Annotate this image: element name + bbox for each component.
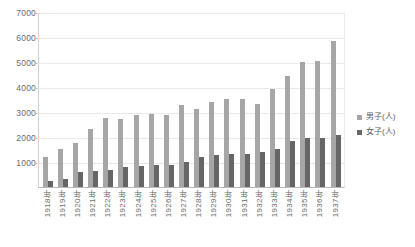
- bar-group: [328, 14, 343, 187]
- x-axis-tick: 1921年: [85, 190, 100, 247]
- bar-group: [70, 14, 85, 187]
- bar-female: [275, 149, 280, 187]
- bar-female: [336, 135, 341, 187]
- y-axis-tick-label: 7000: [2, 9, 36, 18]
- x-axis-tick-label: 1918年: [44, 190, 52, 217]
- bar-female: [184, 162, 189, 187]
- y-axis-tick-label: 6000: [2, 34, 36, 43]
- legend-item[interactable]: 女子(人): [356, 127, 414, 137]
- x-axis-tick-label: 1936年: [316, 190, 324, 217]
- plot-area: [38, 13, 345, 188]
- x-axis-tick-label: 1925年: [150, 190, 158, 217]
- bar-female: [260, 152, 265, 187]
- y-axis-tick-label: 2000: [2, 134, 36, 143]
- bar-female: [245, 154, 250, 187]
- x-axis-tick-label: 1921年: [89, 190, 97, 217]
- y-axis-tick-label: 1000: [2, 159, 36, 168]
- x-axis-tick: 1918年: [40, 190, 55, 247]
- bar-chart: 7000600050004000300020001000 1918年1919年1…: [0, 0, 415, 247]
- x-axis-tick: 1926年: [161, 190, 176, 247]
- bar-group: [283, 14, 298, 187]
- x-axis-tick-label: 1927年: [180, 190, 188, 217]
- x-axis-tick: 1933年: [267, 190, 282, 247]
- bar-group: [207, 14, 222, 187]
- bar-group: [237, 14, 252, 187]
- x-axis-tick: 1934年: [283, 190, 298, 247]
- x-axis-tick: 1931年: [237, 190, 252, 247]
- y-axis-tick-label: 3000: [2, 109, 36, 118]
- bar-female: [154, 165, 159, 187]
- bar-group: [146, 14, 161, 187]
- x-axis-tick: 1924年: [131, 190, 146, 247]
- bar-group: [313, 14, 328, 187]
- x-axis-tick-label: 1924年: [135, 190, 143, 217]
- x-axis-tick: 1920年: [70, 190, 85, 247]
- legend-label: 男子(人): [366, 112, 395, 122]
- bars-layer: [39, 14, 344, 187]
- bar-female: [63, 179, 68, 187]
- x-axis-tick-label: 1919年: [59, 190, 67, 217]
- x-axis-tick: 1923年: [116, 190, 131, 247]
- legend-item[interactable]: 男子(人): [356, 112, 414, 122]
- x-axis-tick-label: 1926年: [165, 190, 173, 217]
- bar-female: [108, 170, 113, 187]
- chart-legend: 男子(人)女子(人): [356, 112, 414, 142]
- bar-female: [139, 166, 144, 187]
- bar-female: [48, 181, 53, 187]
- bar-group: [40, 14, 55, 187]
- bar-group: [222, 14, 237, 187]
- x-axis-labels: 1918年1919年1920年1921年1922年1923年1924年1925年…: [39, 190, 344, 247]
- bar-female: [169, 165, 174, 187]
- legend-swatch-icon: [356, 114, 363, 121]
- x-axis-tick: 1937年: [328, 190, 343, 247]
- bar-group: [267, 14, 282, 187]
- x-axis-tick-label: 1933年: [271, 190, 279, 217]
- x-axis-tick-label: 1934年: [286, 190, 294, 217]
- x-axis-tick-label: 1931年: [241, 190, 249, 217]
- y-axis: 7000600050004000300020001000: [0, 0, 36, 201]
- x-axis-tick-label: 1929年: [210, 190, 218, 217]
- bar-group: [101, 14, 116, 187]
- bar-female: [214, 155, 219, 187]
- x-axis-tick-label: 1923年: [119, 190, 127, 217]
- y-axis-tick-label: 4000: [2, 84, 36, 93]
- x-axis-tick: 1928年: [192, 190, 207, 247]
- bar-group: [55, 14, 70, 187]
- bar-group: [298, 14, 313, 187]
- x-axis-tick-label: 1922年: [104, 190, 112, 217]
- x-axis-tick-label: 1932年: [256, 190, 264, 217]
- bar-female: [305, 138, 310, 187]
- x-axis-tick: 1930年: [222, 190, 237, 247]
- bar-female: [229, 154, 234, 187]
- x-axis-tick-label: 1930年: [225, 190, 233, 217]
- x-axis-tick: 1919年: [55, 190, 70, 247]
- bar-female: [123, 167, 128, 187]
- legend-swatch-icon: [356, 129, 363, 136]
- x-axis-tick-label: 1928年: [195, 190, 203, 217]
- bar-group: [131, 14, 146, 187]
- bar-group: [176, 14, 191, 187]
- bar-female: [320, 138, 325, 187]
- bar-female: [199, 157, 204, 187]
- bar-female: [93, 171, 98, 187]
- bar-group: [116, 14, 131, 187]
- bar-group: [192, 14, 207, 187]
- x-axis-tick-label: 1937年: [332, 190, 340, 217]
- x-axis-tick-label: 1935年: [301, 190, 309, 217]
- y-axis-tick-label: 5000: [2, 59, 36, 68]
- bar-group: [161, 14, 176, 187]
- x-axis-tick: 1936年: [313, 190, 328, 247]
- bar-group: [85, 14, 100, 187]
- x-axis-tick: 1927年: [176, 190, 191, 247]
- x-axis-tick: 1932年: [252, 190, 267, 247]
- legend-label: 女子(人): [366, 127, 395, 137]
- x-axis-tick: 1935年: [298, 190, 313, 247]
- x-axis-tick: 1929年: [207, 190, 222, 247]
- x-axis-tick: 1925年: [146, 190, 161, 247]
- bar-female: [78, 172, 83, 187]
- x-axis-tick: 1922年: [101, 190, 116, 247]
- bar-female: [290, 141, 295, 187]
- bar-group: [252, 14, 267, 187]
- x-axis-tick-label: 1920年: [74, 190, 82, 217]
